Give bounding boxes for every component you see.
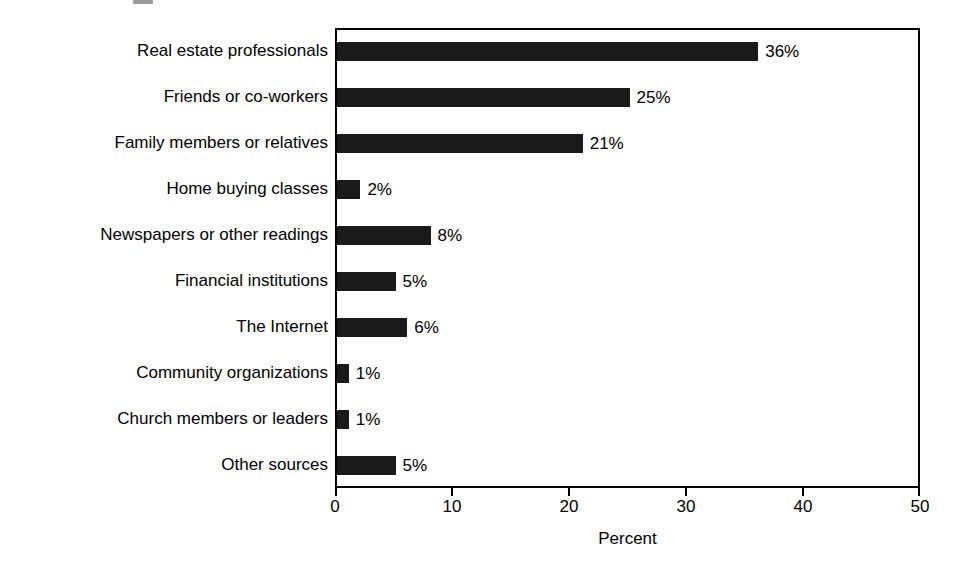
category-label: Other sources [0, 455, 328, 475]
bar-row: Community organizations1% [0, 350, 958, 396]
category-label: Home buying classes [0, 179, 328, 199]
x-tick-mark [451, 488, 453, 496]
bar [337, 456, 396, 475]
bar-chart: Real estate professionals36%Friends or c… [0, 0, 958, 577]
bar [337, 364, 349, 383]
x-tick-label: 40 [794, 496, 813, 518]
bar-value-label: 8% [438, 226, 463, 245]
cropped-title-artifact [133, 0, 153, 4]
x-tick-mark [568, 488, 570, 496]
bar-row: Church members or leaders1% [0, 396, 958, 442]
bar [337, 134, 583, 153]
bar [337, 272, 396, 291]
category-label: Community organizations [0, 363, 328, 383]
bar-with-value: 25% [337, 88, 671, 107]
x-tick-label: 0 [330, 496, 339, 518]
bar [337, 42, 758, 61]
bar-value-label: 1% [356, 364, 381, 383]
x-tick-mark [685, 488, 687, 496]
x-tick-label: 30 [677, 496, 696, 518]
bar-value-label: 36% [765, 42, 799, 61]
bar-value-label: 5% [403, 456, 428, 475]
bar-with-value: 6% [337, 318, 439, 337]
bar-value-label: 6% [414, 318, 439, 337]
bar [337, 88, 630, 107]
bar-value-label: 5% [403, 272, 428, 291]
x-tick-label: 10 [443, 496, 462, 518]
category-label: Newspapers or other readings [0, 225, 328, 245]
category-label: Church members or leaders [0, 409, 328, 429]
bar-value-label: 25% [637, 88, 671, 107]
bar-row: Real estate professionals36% [0, 28, 958, 74]
bar-row: Family members or relatives21% [0, 120, 958, 166]
bar-with-value: 1% [337, 410, 380, 429]
bar-row: Home buying classes2% [0, 166, 958, 212]
x-tick-label: 20 [560, 496, 579, 518]
x-axis-ticks [335, 488, 920, 496]
bar [337, 410, 349, 429]
bar-row: Financial institutions5% [0, 258, 958, 304]
bar [337, 318, 407, 337]
bar-rows-container: Real estate professionals36%Friends or c… [0, 28, 958, 488]
bar-value-label: 2% [367, 180, 392, 199]
category-label: Real estate professionals [0, 41, 328, 61]
bar-row: The Internet6% [0, 304, 958, 350]
x-axis-tick-labels: 01020304050 [335, 496, 920, 520]
x-tick-mark [918, 488, 920, 496]
bar-value-label: 1% [356, 410, 381, 429]
bar-with-value: 5% [337, 272, 427, 291]
bar-value-label: 21% [590, 134, 624, 153]
bar [337, 180, 360, 199]
bar [337, 226, 431, 245]
x-tick-mark [802, 488, 804, 496]
bar-row: Newspapers or other readings8% [0, 212, 958, 258]
bar-with-value: 1% [337, 364, 380, 383]
x-axis-title: Percent [335, 528, 920, 550]
bar-row: Other sources5% [0, 442, 958, 488]
category-label: Family members or relatives [0, 133, 328, 153]
bar-with-value: 2% [337, 180, 392, 199]
bar-with-value: 36% [337, 42, 799, 61]
bar-with-value: 8% [337, 226, 462, 245]
bar-with-value: 5% [337, 456, 427, 475]
x-tick-label: 50 [911, 496, 930, 518]
category-label: Friends or co-workers [0, 87, 328, 107]
category-label: Financial institutions [0, 271, 328, 291]
bar-row: Friends or co-workers25% [0, 74, 958, 120]
category-label: The Internet [0, 317, 328, 337]
bar-with-value: 21% [337, 134, 624, 153]
x-tick-mark [335, 488, 337, 496]
